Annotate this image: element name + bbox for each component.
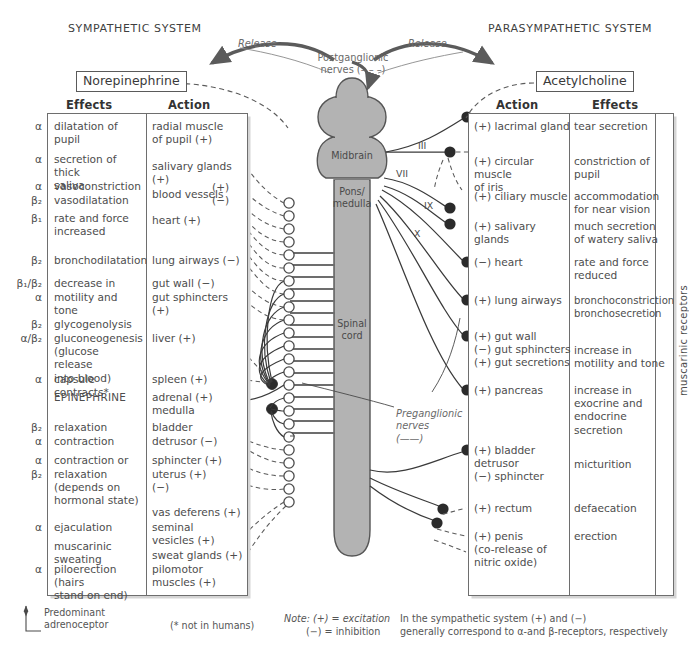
receptor-9: α/β₂ [2, 332, 42, 345]
midbrain-label: Midbrain [322, 150, 382, 162]
para-action-7: (+) pancreas [474, 384, 570, 397]
effect-4: rate and force increased [54, 212, 136, 238]
receptor-17: α [12, 521, 42, 534]
pons-medulla-label: Pons/ medulla [322, 186, 382, 209]
effect-13: contraction [54, 435, 140, 448]
action-9: liver (+) [152, 332, 244, 345]
note-inhibition: (−) = inhibition [306, 626, 380, 638]
receptor-8: β₂ [8, 318, 42, 331]
receptor-5: β₂ [12, 254, 42, 267]
postganglionic-nerves-label: Postganglionic nerves (– – –) [305, 52, 401, 76]
para-effect-7: increase in exocrine and endocrine secre… [574, 384, 670, 437]
epinephrine-label: EPINEPHRINE [54, 391, 126, 403]
action-12: bladder [152, 421, 244, 434]
effect-6: decrease in [54, 277, 140, 290]
receptor-3: β₂ [12, 194, 42, 207]
sympathetic-chain [259, 198, 335, 507]
receptor-6: β₁/β₂ [2, 277, 42, 290]
receptor-15: β₂ [12, 468, 42, 481]
parasympathetic-ganglia [431, 111, 472, 528]
predominant-adrenoceptor-pointer [26, 606, 41, 631]
effect-0: dilatation of pupil [54, 120, 134, 146]
note-excitation: Note: (+) = excitation [284, 613, 390, 625]
parasympathetic-action-header: Action [496, 98, 538, 112]
para-action-10: (+) penis (co-release of nitric oxide) [474, 530, 574, 570]
para-effect-6: increase in motility and tone [574, 344, 670, 370]
para-effect-1: constriction of pupil [574, 155, 670, 181]
sympathetic-effects-header: Effects [66, 98, 112, 112]
action-15: uterus (+) (−) [152, 468, 244, 494]
para-effect-5: bronchoconstriction bronchosecretion [574, 294, 674, 320]
action-4: heart (+) [152, 214, 244, 227]
para-action-6: (+) gut wall (−) gut sphincters (+) gut … [474, 330, 574, 370]
sympathetic-action-header: Action [168, 98, 210, 112]
muscarinic-receptors-label: muscarinic receptors [678, 285, 689, 396]
action-16: vas deferens (+) [152, 506, 248, 519]
effect-5: bronchodilatation [54, 254, 140, 267]
receptor-4: β₁ [12, 212, 42, 225]
action-14: sphincter (+) [152, 454, 244, 467]
para-action-1: (+) circular muscle of iris [474, 155, 570, 195]
para-effect-4: rate and force reduced [574, 256, 670, 282]
release-label-left: Release [238, 38, 277, 50]
parasympathetic-system-title: PARASYMPATHETIC SYSTEM [488, 22, 652, 35]
parasympathetic-cranial-nerves [370, 118, 464, 522]
para-effect-9: defaecation [574, 502, 670, 515]
effect-17: ejaculation [54, 521, 140, 534]
receptor-14: α [12, 454, 42, 467]
receptor-12: β₂ [12, 421, 42, 434]
receptor-0: α [12, 120, 42, 133]
para-effect-2: accommodation for near vision [574, 190, 670, 216]
para-action-2: (+) ciliary muscle [474, 190, 570, 203]
cranial-nerve-x: X [414, 228, 420, 239]
diagram-root: SYMPATHETIC SYSTEM PARASYMPATHETIC SYSTE… [0, 0, 700, 654]
action-13: detrusor (−) [152, 435, 244, 448]
effect-3: vasodilatation [54, 194, 136, 207]
receptor-1: α [12, 153, 42, 166]
para-effect-0: tear secretion [574, 120, 670, 133]
norepinephrine-box: Norepinephrine [76, 71, 187, 92]
release-label-right: Release [408, 38, 447, 50]
para-action-8: (+) bladder detrusor (−) sphincter [474, 444, 570, 484]
para-action-3: (+) salivary glands [474, 220, 570, 246]
action-7: gut sphincters (+) [152, 291, 248, 317]
cranial-nerve-vii: VII [396, 168, 408, 179]
action-0: radial muscle of pupil (+) [152, 120, 244, 146]
spinal-cord-label: Spinal cord [322, 318, 382, 341]
effect-7: motility and tone [54, 291, 140, 317]
receptor-7: α [12, 291, 42, 304]
effect-2: vasoconstriction [54, 180, 136, 193]
receptor-19: α [12, 563, 42, 576]
receptor-2: α [12, 180, 42, 193]
effect-15: relaxation (depends on hormonal state) [54, 468, 140, 508]
predominant-adrenoceptor-note: Predominant adrenoceptor [44, 607, 108, 632]
sympathetic-table-divider [146, 114, 147, 595]
effect-19: piloerection (hairs stand on end) [54, 563, 146, 603]
action-11: adrenal (+) medulla [152, 391, 244, 417]
para-effect-8: micturition [574, 458, 670, 471]
action-17: seminal vesicles (+) [152, 521, 244, 547]
note-receptors-line2: generally correspond to α-and β-receptor… [400, 626, 668, 638]
action-5: lung airways (−) [152, 254, 244, 267]
action-6: gut wall (−) [152, 277, 244, 290]
para-action-4: (−) heart [474, 256, 570, 269]
effect-14: contraction or [54, 454, 140, 467]
effect-8: glycogenolysis [54, 318, 140, 331]
action-10: spleen (+) [152, 373, 244, 386]
receptor-13: α [12, 435, 42, 448]
para-action-0: (+) lacrimal gland [474, 120, 570, 133]
para-action-5: (+) lung airways [474, 294, 572, 307]
sympathetic-system-title: SYMPATHETIC SYSTEM [68, 22, 202, 35]
action-18: sweat glands (+) [152, 549, 248, 562]
acetylcholine-box: Acetylcholine [536, 71, 634, 92]
para-effect-10: erection [574, 530, 670, 543]
effect-12: relaxation [54, 421, 140, 434]
receptor-10: α [12, 373, 42, 386]
action-3: (+) (−) [212, 181, 236, 207]
cranial-nerve-ix: IX [424, 200, 433, 211]
note-receptors-line1: In the sympathetic system (+) and (−) [400, 613, 586, 625]
not-in-humans-note: (* not in humans) [170, 620, 254, 632]
para-effect-3: much secretion of watery saliva [574, 220, 670, 246]
action-19: pilomotor muscles (+) [152, 563, 244, 589]
cranial-nerve-iii: III [418, 140, 426, 151]
